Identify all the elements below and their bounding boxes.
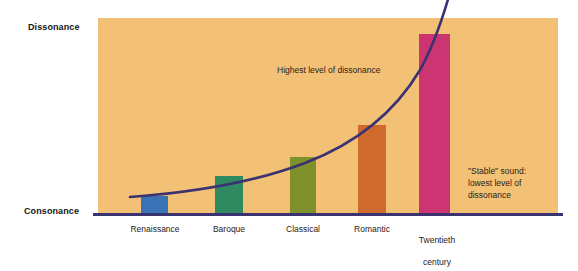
annotation-stable-line-3: dissonance [468, 189, 526, 201]
axis-label-dissonance: Dissonance [28, 22, 80, 32]
category-label-twentieth-century-line-2: century [419, 257, 455, 268]
annotation-stable-line-2: lowest level of [468, 177, 526, 189]
category-label-romantic: Romantic [354, 224, 390, 235]
bar-renaissance [141, 196, 168, 214]
bar-romantic [358, 125, 386, 214]
category-label-baroque: Baroque [213, 224, 245, 235]
annotation-stable-sound: "Stable" sound: lowest level of dissonan… [468, 165, 526, 201]
bar-baroque [215, 176, 243, 214]
annotation-highest-dissonance: Highest level of dissonance [277, 64, 380, 76]
consonance-axis-line [93, 213, 563, 216]
category-label-renaissance: Renaissance [130, 224, 179, 235]
category-axis-labels: Renaissance Baroque Classical Romantic T… [0, 224, 578, 258]
category-label-classical: Classical [286, 224, 320, 235]
bar-classical [290, 157, 316, 214]
category-label-twentieth-century: Twentieth century [419, 224, 455, 271]
annotation-stable-line-1: "Stable" sound: [468, 165, 526, 177]
category-label-twentieth-century-line-1: Twentieth [419, 235, 455, 246]
bar-twentieth-century [419, 34, 450, 214]
axis-label-consonance: Consonance [24, 206, 79, 216]
